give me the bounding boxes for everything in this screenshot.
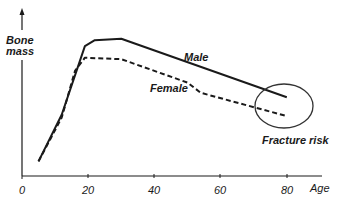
x-tick-label-80: 80 [281,184,293,196]
female-label: Female [150,82,188,94]
fracture-risk-ellipse [255,84,313,128]
male-label: Male [184,51,208,63]
x-axis-label: Age [310,182,330,194]
y-axis-label-line2: mass [6,45,34,57]
x-tick-label-20: 20 [82,184,94,196]
fracture-risk-label: Fracture risk [262,134,329,146]
y-axis-arrowhead-icon [20,8,25,15]
x-tick-label-60: 60 [214,184,226,196]
male-series-line [39,39,287,162]
x-tick-label-0: 0 [19,184,25,196]
x-tick-label-40: 40 [148,184,160,196]
bone-mass-chart [0,0,345,207]
